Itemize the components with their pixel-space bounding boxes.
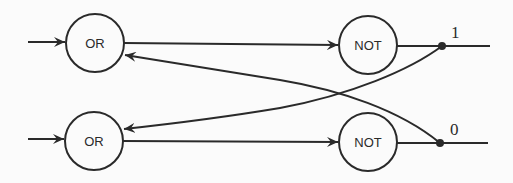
not-gate-top-label: NOT: [354, 38, 382, 53]
output-label-top: 1: [451, 23, 460, 42]
flip-flop-diagram: OR NOT OR NOT 1 0: [0, 0, 513, 183]
output-label-bottom: 0: [450, 120, 459, 139]
not-gate-bottom-label: NOT: [354, 135, 382, 150]
or-gate-bottom-label: OR: [84, 134, 104, 149]
junction-dot-top: [438, 42, 446, 50]
junction-dot-bottom: [436, 139, 444, 147]
wire-or-top-to-not-top: [124, 43, 338, 45]
wire-or-bottom-to-not-bottom: [123, 141, 338, 142]
or-gate-top-label: OR: [85, 36, 105, 51]
